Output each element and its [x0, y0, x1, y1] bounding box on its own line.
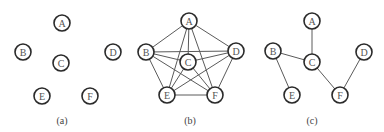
node-label: A — [185, 16, 193, 27]
panel-a: ABCDEF(a) — [15, 15, 121, 127]
node-label: E — [289, 90, 295, 101]
node-e: E — [34, 88, 50, 104]
node-a: A — [54, 15, 70, 31]
node-label: B — [143, 47, 150, 58]
node-e: E — [159, 87, 175, 103]
panel-b: ABCDEF(b) — [138, 13, 244, 127]
node-d: D — [356, 44, 372, 60]
node-label: D — [232, 46, 239, 57]
node-label: C — [58, 58, 65, 69]
node-label: D — [360, 47, 367, 58]
node-label: E — [39, 91, 45, 102]
node-a: A — [181, 13, 197, 29]
node-label: F — [337, 90, 343, 101]
node-d: D — [105, 44, 121, 60]
node-label: E — [164, 90, 170, 101]
node-d: D — [228, 43, 244, 59]
node-f: F — [82, 88, 98, 104]
node-e: E — [284, 87, 300, 103]
panel-caption: (b) — [184, 115, 196, 127]
edge-b-d — [146, 51, 236, 52]
node-label: B — [20, 47, 27, 58]
node-c: C — [53, 55, 69, 71]
node-a: A — [304, 13, 320, 29]
node-label: A — [58, 18, 66, 29]
node-f: F — [207, 87, 223, 103]
panel-caption: (c) — [306, 115, 317, 127]
node-c: C — [180, 54, 196, 70]
node-b: B — [265, 43, 281, 59]
node-label: C — [185, 57, 192, 68]
panel-c: ABCDEF(c) — [265, 13, 372, 127]
node-b: B — [15, 44, 31, 60]
node-label: B — [270, 46, 277, 57]
node-c: C — [304, 54, 320, 70]
node-label: F — [212, 90, 218, 101]
node-b: B — [138, 44, 154, 60]
node-label: A — [308, 16, 316, 27]
panel-caption: (a) — [56, 115, 67, 127]
graph-diagram: ABCDEF(a) ABCDEF(b) ABCDEF(c) — [0, 0, 384, 132]
node-label: C — [309, 57, 316, 68]
node-label: D — [109, 47, 116, 58]
node-label: F — [87, 91, 93, 102]
node-f: F — [332, 87, 348, 103]
